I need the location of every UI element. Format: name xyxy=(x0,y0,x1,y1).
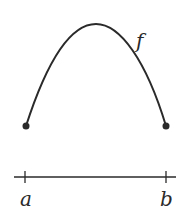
function-curve xyxy=(26,24,166,126)
function-diagram: f a b xyxy=(0,0,187,220)
function-label: f xyxy=(134,29,147,53)
right-endpoint-dot xyxy=(163,123,170,130)
label-a: a xyxy=(20,187,32,211)
diagram-canvas: f a b xyxy=(0,0,187,220)
left-endpoint-dot xyxy=(23,123,30,130)
label-b: b xyxy=(160,187,173,211)
